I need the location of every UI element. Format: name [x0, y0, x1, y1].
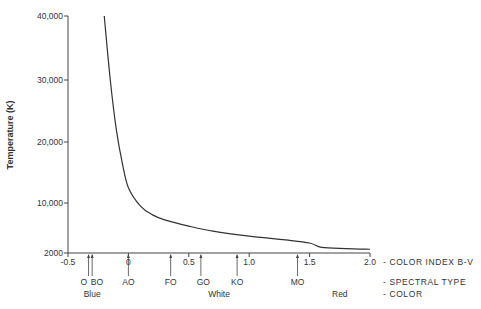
row-labels: - COLOR INDEX B-V- SPECTRAL TYPE- COLOR: [383, 257, 474, 299]
x-axis-ticks: -0.500.51.01.52.0: [61, 253, 377, 267]
temperature-curve: [104, 16, 370, 249]
y-tick-label: 20,000: [37, 137, 63, 147]
row-label: - COLOR INDEX B-V: [383, 257, 474, 267]
curve-line: [104, 16, 370, 249]
x-tick-label: 1.0: [243, 257, 255, 267]
y-tick-label: 40,000: [37, 11, 63, 21]
x-tick-label: 1.5: [304, 257, 316, 267]
color-labels: BlueWhiteRed: [84, 289, 348, 299]
color-label: Blue: [84, 289, 101, 299]
x-tick-label: 2.0: [364, 257, 376, 267]
y-axis-title: Temperature (K): [5, 101, 15, 170]
spectral-type-label: BO: [91, 277, 104, 287]
color-label: Red: [332, 289, 348, 299]
axes: [68, 16, 370, 253]
spectral-type-label: FO: [165, 277, 177, 287]
x-tick-label: 0.5: [183, 257, 195, 267]
temperature-color-index-chart: 40,00030,00020,00010,0002000 -0.500.51.0…: [0, 0, 481, 309]
row-label: - COLOR: [383, 289, 423, 299]
spectral-type-label: KO: [231, 277, 244, 287]
spectral-type-label: AO: [122, 277, 135, 287]
spectral-type-label: MO: [291, 277, 305, 287]
y-axis-ticks: 40,00030,00020,00010,0002000: [37, 11, 68, 258]
spectral-type-label: O: [80, 277, 87, 287]
color-label: White: [208, 289, 230, 299]
spectral-type-label: GO: [197, 277, 211, 287]
y-tick-label: 10,000: [37, 198, 63, 208]
x-tick-label: -0.5: [61, 257, 76, 267]
row-label: - SPECTRAL TYPE: [383, 277, 466, 287]
y-tick-label: 30,000: [37, 75, 63, 85]
